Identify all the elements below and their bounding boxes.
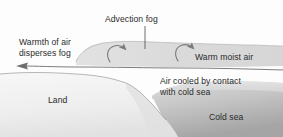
- label-land: Land: [48, 95, 67, 106]
- label-warmth-line-2: disperses fog: [19, 48, 71, 58]
- label-warmth-line-1: Warmth of air: [19, 37, 71, 47]
- label-air-cooled-line-2: with cold sea: [160, 87, 210, 97]
- label-cold-sea: Cold sea: [209, 112, 243, 123]
- label-advection-fog: Advection fog: [105, 14, 158, 25]
- label-warm-moist-air: Warm moist air: [195, 52, 253, 63]
- label-warmth-of-air-disperses-fog: Warmth of air disperses fog: [19, 37, 109, 59]
- warm-air-flow-arrowhead: [16, 63, 28, 70]
- label-air-cooled-by-contact-with-cold-sea: Air cooled by contact with cold sea: [160, 76, 280, 98]
- label-air-cooled-line-1: Air cooled by contact: [160, 76, 241, 86]
- advection-fog-diagram: Advection fog Warmth of air disperses fo…: [0, 0, 283, 137]
